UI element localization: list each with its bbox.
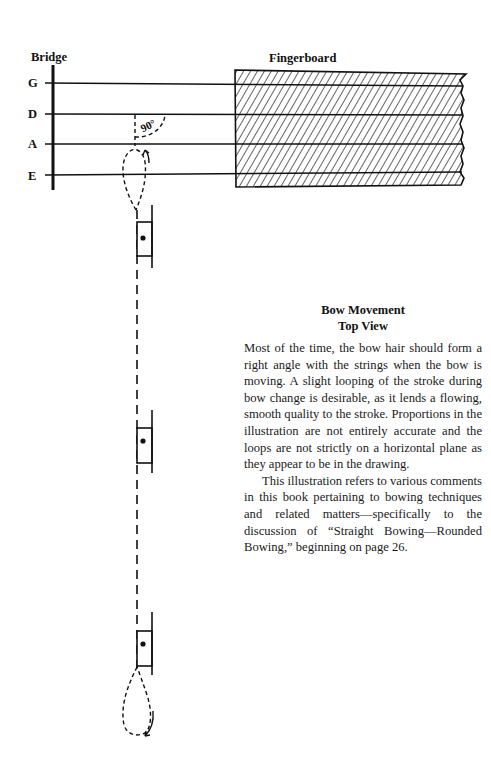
bottom-bow-loop [123,667,151,735]
caption-subtitle: Top View [244,318,482,334]
loop-arrow-icon [145,711,153,736]
fingerboard [235,70,466,187]
caption-body: Most of the time, the bow hair should fo… [244,340,482,556]
fingerboard-label: Fingerboard [269,51,336,66]
string-label-a: A [28,137,37,152]
angle-label: 90° [138,117,157,134]
string-label-d: D [28,107,37,122]
caption-title: Bow Movement [244,302,482,318]
string-label-e: E [28,169,36,184]
bow-frog-top [137,205,152,268]
caption-paragraph: Most of the time, the bow hair should fo… [244,340,482,473]
caption-paragraph: This illustration refers to various comm… [244,473,482,556]
string-label-g: G [28,76,38,91]
figure-caption: Bow Movement Top View Most of the time, … [244,302,482,556]
bow-frog-bottom [137,612,152,675]
bridge-label: Bridge [31,50,67,65]
top-bow-loop [123,150,145,210]
bow-frog-middle [137,410,152,473]
